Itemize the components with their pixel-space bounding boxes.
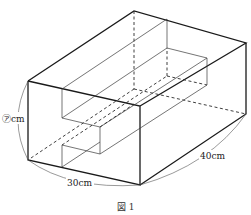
width-label: 30cm (67, 178, 92, 188)
partition-lower-ledge-front (100, 85, 207, 154)
partition-top-edge (62, 19, 167, 89)
figure-caption: 図 1 (117, 202, 135, 212)
right-face (140, 43, 246, 185)
partition-lower-ledge-back-hidden (62, 76, 167, 145)
partition-upper-ledge-back (62, 48, 167, 118)
top-face (28, 11, 246, 106)
partition-back-profile (167, 19, 207, 85)
depth-label: 40cm (200, 151, 225, 161)
back-bottom-right-hidden (134, 89, 246, 114)
partition-bottom-edge (62, 142, 100, 167)
height-label: ㋐cm (2, 114, 25, 124)
figure-1-box-diagram: ㋐cm 30cm 40cm 図 1 (0, 0, 251, 215)
partition-mid-hidden (100, 104, 134, 127)
partition-front-profile (62, 89, 100, 167)
box-drawing: ㋐cm 30cm 40cm 図 1 (0, 0, 251, 215)
